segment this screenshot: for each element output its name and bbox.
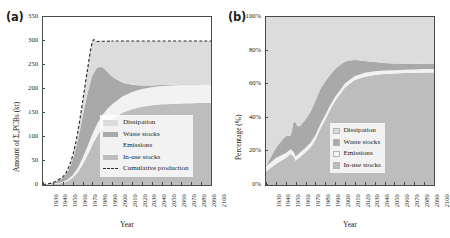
- y-tick-mark: [42, 16, 45, 17]
- x-tick-mark: [286, 182, 287, 185]
- legend-label: Dissipation: [123, 119, 155, 126]
- x-tick-label: 1950: [295, 194, 302, 207]
- legend-swatch-icon: [103, 132, 118, 138]
- x-tick-label: 1980: [101, 194, 108, 207]
- x-tick-mark: [142, 182, 143, 185]
- x-tick-label: 2000: [344, 194, 351, 207]
- x-tick-mark: [375, 182, 376, 185]
- y-tick-label: 20%: [235, 146, 261, 153]
- panel-a-legend: DissipationWaste stocksEmissionsIn-use s…: [100, 115, 193, 177]
- x-tick-mark: [325, 182, 326, 185]
- panel-b-x-axis-title: Year: [265, 220, 435, 229]
- x-tick-label: 1970: [315, 194, 322, 207]
- x-tick-label: 1970: [92, 194, 99, 207]
- legend-item: Waste stocks: [103, 129, 189, 141]
- x-tick-mark: [315, 182, 316, 185]
- x-tick-label: 1990: [111, 194, 118, 207]
- x-tick-mark: [162, 182, 163, 185]
- legend-item: Dissipation: [333, 125, 381, 137]
- y-tick-mark: [265, 16, 268, 17]
- legend-swatch-icon: [103, 120, 118, 126]
- y-tick-mark: [265, 50, 268, 51]
- legend-label: Emissions: [344, 150, 373, 157]
- x-tick-mark: [385, 182, 386, 185]
- y-tick-label: 0: [12, 180, 38, 187]
- x-tick-mark: [191, 182, 192, 185]
- x-tick-label: 2070: [190, 194, 197, 207]
- x-tick-mark: [404, 182, 405, 185]
- legend-label: Emissions: [123, 142, 152, 149]
- y-tick-label: 100: [12, 132, 38, 139]
- x-tick-label: 2090: [433, 194, 440, 207]
- panel-b: (b) Percentage (%) 0%20%40%60%80%100% 19…: [224, 0, 448, 238]
- x-tick-mark: [83, 182, 84, 185]
- x-tick-mark: [335, 182, 336, 185]
- y-tick-label: 40%: [235, 113, 261, 120]
- x-tick-mark: [296, 182, 297, 185]
- legend-label: Cumulative production: [123, 165, 189, 172]
- x-tick-mark: [102, 182, 103, 185]
- x-tick-mark: [122, 182, 123, 185]
- legend-swatch-icon: [333, 139, 340, 146]
- x-tick-mark: [414, 182, 415, 185]
- x-tick-label: 2030: [374, 194, 381, 207]
- legend-swatch-icon: [333, 128, 340, 135]
- legend-label: Dissipation: [344, 127, 376, 134]
- legend-swatch-icon: [333, 151, 340, 158]
- legend-swatch-icon: [103, 143, 118, 149]
- x-tick-label: 2040: [384, 194, 391, 207]
- x-tick-mark: [424, 182, 425, 185]
- y-tick-mark: [265, 150, 268, 151]
- x-tick-mark: [201, 182, 202, 185]
- x-tick-mark: [266, 182, 267, 185]
- y-tick-label: 250: [12, 60, 38, 67]
- x-tick-label: 2030: [151, 194, 158, 207]
- y-tick-label: 60%: [235, 79, 261, 86]
- y-tick-label: 200: [12, 84, 38, 91]
- y-tick-mark: [42, 112, 45, 113]
- x-tick-mark: [365, 182, 366, 185]
- x-tick-mark: [345, 182, 346, 185]
- x-tick-label: 1990: [334, 194, 341, 207]
- legend-label: Waste stocks: [123, 131, 160, 138]
- legend-item: Cumulative production: [103, 163, 189, 175]
- x-tick-label: 2060: [403, 194, 410, 207]
- x-tick-label: 1930: [275, 194, 282, 207]
- y-tick-mark: [42, 40, 45, 41]
- x-tick-label: 2020: [364, 194, 371, 207]
- x-tick-label: 2080: [200, 194, 207, 207]
- legend-item: Dissipation: [103, 117, 189, 129]
- x-tick-label: 1950: [72, 194, 79, 207]
- y-tick-mark: [265, 117, 268, 118]
- y-tick-mark: [42, 160, 45, 161]
- panel-b-legend: DissipationWaste stocksEmissionsIn-use s…: [330, 123, 385, 173]
- legend-swatch-icon: [333, 162, 340, 169]
- x-tick-mark: [152, 182, 153, 185]
- y-tick-label: 50: [12, 156, 38, 163]
- y-tick-mark: [265, 83, 268, 84]
- x-tick-mark: [43, 182, 44, 185]
- x-tick-label: 2010: [354, 194, 361, 207]
- panel-a-x-axis-title: Year: [42, 220, 212, 229]
- x-tick-label: 2040: [161, 194, 168, 207]
- x-tick-label: 2090: [210, 194, 217, 207]
- x-tick-label: 2080: [423, 194, 430, 207]
- legend-label: In-use stocks: [123, 154, 160, 161]
- y-tick-label: 350: [12, 12, 38, 19]
- x-tick-mark: [306, 182, 307, 185]
- x-tick-label: 2050: [171, 194, 178, 207]
- y-tick-mark: [42, 64, 45, 65]
- x-tick-mark: [211, 182, 212, 185]
- y-tick-mark: [42, 88, 45, 89]
- x-tick-mark: [73, 182, 74, 185]
- x-tick-mark: [112, 182, 113, 185]
- y-tick-mark: [42, 136, 45, 137]
- x-tick-mark: [92, 182, 93, 185]
- y-tick-label: 0%: [235, 180, 261, 187]
- legend-label: Waste stocks: [344, 139, 381, 146]
- x-tick-mark: [53, 182, 54, 185]
- x-tick-label: 1960: [305, 194, 312, 207]
- x-tick-label: 1940: [285, 194, 292, 207]
- legend-item: Emissions: [333, 148, 381, 160]
